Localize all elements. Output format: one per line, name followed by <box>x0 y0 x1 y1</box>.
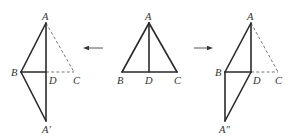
left-figure: A B D C A′ <box>11 11 81 135</box>
left-label-A: A <box>41 11 49 22</box>
right-label-A-double-prime: A″ <box>218 124 230 135</box>
arrow-right <box>194 46 213 50</box>
left-label-B: B <box>11 67 18 78</box>
right-label-C: C <box>275 75 283 86</box>
arrow-left-icon <box>83 46 89 50</box>
right-figure: A B D C A″ <box>215 11 283 135</box>
right-dashed-AC <box>251 23 278 72</box>
middle-label-D: D <box>144 75 153 86</box>
right-segment-DA-double-prime <box>225 72 251 121</box>
middle-label-C: C <box>174 75 182 86</box>
middle-segment-AC <box>149 23 177 72</box>
left-segment-AB <box>21 23 46 72</box>
arrow-right-icon <box>207 46 213 50</box>
middle-figure: A B D C <box>117 11 182 86</box>
right-label-A: A <box>246 11 254 22</box>
geometry-diagram: A B D C A′ A B D C A B D C A″ <box>0 0 293 139</box>
left-label-A-prime: A′ <box>41 124 51 135</box>
arrow-left <box>83 46 103 50</box>
right-label-B: B <box>215 67 222 78</box>
left-label-C: C <box>73 75 81 86</box>
right-label-D: D <box>252 75 261 86</box>
middle-label-B: B <box>117 75 124 86</box>
middle-label-A: A <box>144 11 152 22</box>
middle-segment-AB <box>122 23 149 72</box>
right-segment-AB <box>225 23 251 72</box>
left-segment-BA-prime <box>21 72 46 121</box>
left-dashed-AC <box>46 23 74 72</box>
left-label-D: D <box>48 75 57 86</box>
